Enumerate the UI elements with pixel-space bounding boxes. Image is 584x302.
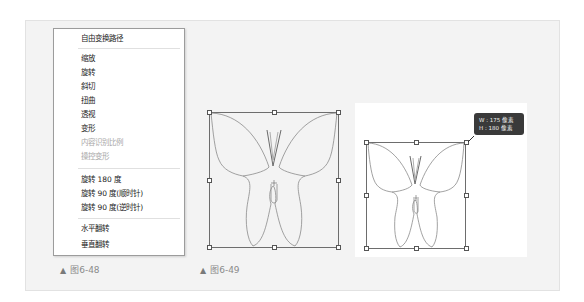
transform-handle-bottom-left[interactable] bbox=[207, 245, 212, 250]
menu-item-rotate-180[interactable]: 旋转 180 度 bbox=[81, 175, 121, 185]
menu-item-puppet-warp: 操控变形 bbox=[81, 152, 109, 162]
transform-handle-right[interactable] bbox=[464, 193, 469, 198]
triangle-marker-icon: ▲ bbox=[60, 266, 66, 275]
menu-item-distort[interactable]: 扭曲 bbox=[81, 96, 95, 106]
menu-item-flip-horizontal[interactable]: 水平翻转 bbox=[81, 224, 109, 234]
transform-handle-top-left[interactable] bbox=[364, 140, 369, 145]
dimension-tooltip: W : 175 像素 H : 180 像素 bbox=[474, 113, 524, 135]
transform-handle-bottom-left[interactable] bbox=[364, 246, 369, 251]
butterfly-shape-icon bbox=[209, 112, 339, 248]
transform-handle-top-right[interactable] bbox=[336, 110, 341, 115]
menu-item-flip-vertical[interactable]: 垂直翻转 bbox=[81, 240, 109, 250]
menu-separator bbox=[78, 168, 180, 169]
transform-handle-bottom-right[interactable] bbox=[464, 246, 469, 251]
transform-handle-bottom[interactable] bbox=[272, 245, 277, 250]
menu-item-rotate[interactable]: 旋转 bbox=[81, 68, 95, 78]
resize-cursor-icon bbox=[468, 136, 474, 142]
menu-item-rotate-90-cw[interactable]: 旋转 90 度(顺时针) bbox=[81, 189, 143, 199]
menu-item-skew[interactable]: 斜切 bbox=[81, 82, 95, 92]
menu-separator bbox=[78, 48, 180, 49]
menu-item-scale[interactable]: 缩放 bbox=[81, 54, 95, 64]
transform-handle-left[interactable] bbox=[207, 178, 212, 183]
transform-handle-right[interactable] bbox=[336, 178, 341, 183]
tooltip-width: W : 175 像素 bbox=[479, 116, 519, 124]
menu-item-warp[interactable]: 变形 bbox=[81, 124, 95, 134]
transform-handle-top-left[interactable] bbox=[207, 110, 212, 115]
transform-handle-top[interactable] bbox=[414, 140, 419, 145]
menu-item-content-aware-scale: 内容识别比例 bbox=[81, 138, 123, 148]
menu-separator bbox=[78, 218, 180, 219]
menu-item-free-transform-path[interactable]: 自由变换路径 bbox=[81, 34, 123, 44]
transform-handle-top[interactable] bbox=[272, 110, 277, 115]
menu-item-rotate-90-ccw[interactable]: 旋转 90 度(逆时针) bbox=[81, 203, 143, 213]
center-point-icon bbox=[271, 180, 277, 186]
caption-fig-6-49: ▲图6-49 bbox=[200, 263, 240, 276]
transform-handle-bottom-right[interactable] bbox=[336, 245, 341, 250]
transform-handle-left[interactable] bbox=[364, 193, 369, 198]
butterfly-shape-resized-icon bbox=[366, 142, 466, 249]
transform-context-menu: 自由变换路径 缩放 旋转 斜切 扭曲 透视 变形 内容识别比例 操控变形 旋转 … bbox=[53, 28, 185, 256]
caption-fig-6-48: ▲图6-48 bbox=[60, 263, 100, 276]
tooltip-height: H : 180 像素 bbox=[479, 124, 519, 132]
transform-handle-bottom[interactable] bbox=[414, 246, 419, 251]
menu-item-perspective[interactable]: 透视 bbox=[81, 110, 95, 120]
triangle-marker-icon: ▲ bbox=[200, 266, 206, 275]
